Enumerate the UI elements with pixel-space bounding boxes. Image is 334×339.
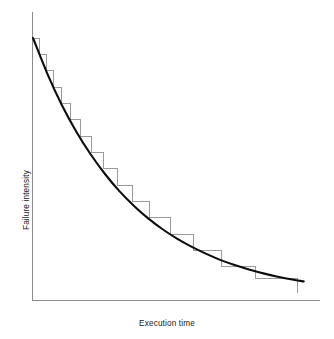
failure-intensity-curve <box>33 38 304 281</box>
chart-plot-area <box>0 0 334 339</box>
step-function-series <box>33 38 297 293</box>
chart-figure: Execution time Failure intensity <box>0 0 334 339</box>
x-axis-label: Execution time <box>0 319 334 328</box>
y-axis-label: Failure intensity <box>22 30 31 230</box>
axes-group <box>32 12 320 301</box>
